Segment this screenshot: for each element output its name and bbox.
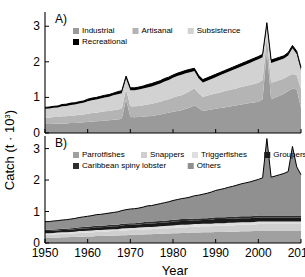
- legend-label-industrial: Industrial: [82, 26, 115, 35]
- figure-container: Catch (t · 103) 0123A)IndustrialArtisana…: [0, 0, 305, 277]
- x-tick-label: 2010: [288, 246, 305, 260]
- legend-swatch-snappers: [141, 152, 147, 158]
- legend-swatch-recreational: [73, 39, 79, 45]
- x-tick-label: 1970: [117, 246, 144, 260]
- y-tick-label: 2: [33, 173, 40, 187]
- y-tick-label: 3: [33, 19, 40, 33]
- legend-label-parrotfishes: Parrotfishes: [82, 150, 125, 159]
- legend-label-triggerfishes: Triggerfishes: [201, 150, 247, 159]
- legend-swatch-groupers: [264, 152, 270, 158]
- legend-swatch-others: [188, 163, 194, 169]
- x-tick-label: 1950: [32, 246, 59, 260]
- panel-b: 01231950196019701980199020002010B)Parrot…: [32, 136, 305, 260]
- y-tick-label: 1: [33, 205, 40, 219]
- legend-swatch-subsistence: [188, 28, 194, 34]
- panel-a: 0123A)IndustrialArtisanalSubsistenceRecr…: [33, 12, 301, 140]
- y-axis-label-text: Catch (t · 10: [2, 119, 17, 191]
- legend-swatch-industrial: [73, 28, 79, 34]
- legend-label-groupers: Groupers: [273, 150, 305, 159]
- legend-label-recreational: Recreational: [82, 37, 127, 46]
- x-tick-label: 1960: [74, 246, 101, 260]
- legend-label-artisanal: Artisanal: [142, 26, 173, 35]
- x-axis-label: Year: [162, 263, 189, 277]
- panel-tag: A): [55, 12, 67, 26]
- y-tick-label: 3: [33, 142, 40, 156]
- y-tick-label: 0: [33, 126, 40, 140]
- x-tick-label: 2000: [245, 246, 272, 260]
- legend-swatch-parrotfishes: [73, 152, 79, 158]
- legend-label-others: Others: [197, 161, 221, 170]
- legend-label-caribbean-spiny-lobster: Caribbean spiny lobster: [82, 161, 166, 170]
- y-tick-label: 2: [33, 55, 40, 69]
- legend-label-snappers: Snappers: [150, 150, 184, 159]
- y-axis-label: Catch (t · 103): [2, 110, 17, 190]
- x-tick-label: 1980: [160, 246, 187, 260]
- stacked-area-chart-figure: Catch (t · 103) 0123A)IndustrialArtisana…: [0, 0, 305, 277]
- y-tick-label: 1: [33, 90, 40, 104]
- legend-swatch-triggerfishes: [192, 152, 198, 158]
- y-axis-label-close: ): [2, 110, 17, 114]
- legend-label-subsistence: Subsistence: [197, 26, 241, 35]
- legend-swatch-caribbean-spiny-lobster: [73, 163, 79, 169]
- panel-tag: B): [55, 136, 67, 150]
- legend-swatch-artisanal: [133, 28, 139, 34]
- x-tick-label: 1990: [202, 246, 229, 260]
